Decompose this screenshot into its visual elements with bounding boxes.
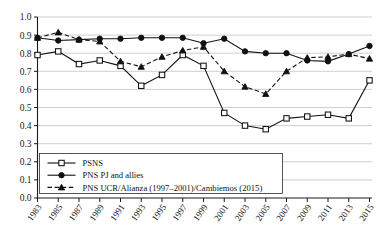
legend-label: PNS PJ and allies [83, 170, 145, 180]
data-point-marker [35, 52, 40, 57]
data-point-marker [284, 116, 289, 121]
chart-legend: PSNSPNS PJ and alliesPNS UCR/Alianza (19… [40, 154, 283, 194]
y-axis-tick-label: 0.4 [20, 121, 32, 131]
x-axis-tick-label: 1989 [87, 202, 106, 223]
data-point-marker [159, 72, 164, 77]
data-point-marker [263, 51, 268, 56]
x-axis-tick-label: 1999 [191, 202, 210, 223]
data-point-marker [118, 36, 123, 41]
series-markers-group [34, 29, 372, 132]
x-axis-tick-label: 2003 [233, 202, 252, 223]
y-axis-tick-label: 0.3 [20, 139, 32, 149]
legend-label: PNS UCR/Alianza (1997–2001)/Cambiemos (2… [83, 183, 263, 193]
x-axis-tick-label: 1983 [25, 202, 44, 223]
y-axis-tick-label: 1.0 [20, 12, 32, 22]
data-point-marker [325, 112, 330, 117]
x-axis-tick-label: 1993 [129, 202, 148, 223]
x-axis-ticks-group [38, 198, 370, 202]
data-point-marker [97, 58, 102, 63]
x-axis-tick-label: 1987 [67, 202, 86, 223]
data-point-marker [117, 58, 123, 64]
data-point-marker [263, 127, 268, 132]
data-point-marker [242, 123, 247, 128]
data-point-marker [367, 43, 372, 48]
data-point-marker [76, 61, 81, 66]
data-point-marker [59, 160, 64, 165]
line-chart: 0.00.10.20.30.40.50.60.70.80.91.0 198319… [0, 0, 376, 243]
x-axis-tick-label: 2013 [336, 202, 355, 223]
x-axis-tick-label: 2009 [295, 202, 314, 223]
data-point-marker [304, 55, 310, 61]
y-axis-labels-group: 0.00.10.20.30.40.50.60.70.80.91.0 [20, 12, 32, 203]
y-axis-tick-label: 0.0 [20, 193, 32, 203]
chart-canvas: 0.00.10.20.30.40.50.60.70.80.91.0 198319… [0, 0, 376, 243]
data-point-marker [284, 51, 289, 56]
y-axis-tick-label: 0.6 [20, 85, 32, 95]
data-point-marker [139, 83, 144, 88]
x-axis-tick-label: 2007 [274, 202, 293, 223]
data-point-marker [159, 54, 165, 60]
data-point-marker [55, 29, 61, 35]
data-point-marker [305, 114, 310, 119]
x-axis-tick-label: 1991 [108, 202, 127, 222]
data-point-marker [367, 78, 372, 83]
y-axis-tick-label: 0.9 [20, 31, 32, 41]
data-point-marker [159, 35, 164, 40]
y-axis-tick-label: 0.7 [20, 67, 32, 77]
data-point-marker [222, 110, 227, 115]
data-point-marker [346, 116, 351, 121]
data-point-marker [242, 49, 247, 54]
data-point-marker [138, 64, 144, 70]
x-axis-labels-group: 1983198519871989199119931995199719992001… [25, 202, 376, 223]
data-point-marker [139, 35, 144, 40]
data-point-marker [59, 173, 64, 178]
x-axis-tick-label: 2001 [212, 202, 231, 222]
data-point-marker [180, 47, 186, 53]
legend-label: PSNS [83, 158, 104, 168]
data-point-marker [222, 36, 227, 41]
y-axis-tick-label: 0.1 [20, 175, 32, 185]
x-axis-tick-label: 2005 [253, 202, 272, 223]
data-point-marker [56, 38, 61, 43]
data-point-marker [180, 35, 185, 40]
x-axis-tick-label: 2015 [357, 202, 376, 223]
x-axis-tick-label: 2011 [316, 202, 334, 222]
data-point-marker [56, 49, 61, 54]
y-axis-tick-label: 0.8 [20, 49, 32, 59]
y-axis-tick-label: 0.2 [20, 157, 32, 167]
data-point-marker [201, 63, 206, 68]
y-axis-tick-label: 0.5 [20, 103, 32, 113]
x-axis-tick-label: 1985 [46, 202, 65, 223]
x-axis-tick-label: 1997 [170, 202, 189, 223]
figure-container: 0.00.10.20.30.40.50.60.70.80.91.0 198319… [0, 0, 376, 243]
x-axis-tick-label: 1995 [150, 202, 169, 223]
